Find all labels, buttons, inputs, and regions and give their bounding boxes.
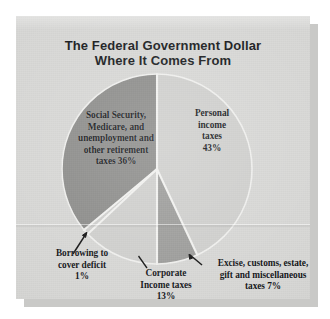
scan-vignette-overlay (16, 16, 310, 299)
page-root: The Federal Government Dollar Where It C… (0, 0, 330, 319)
chart-card: The Federal Government Dollar Where It C… (16, 16, 310, 299)
